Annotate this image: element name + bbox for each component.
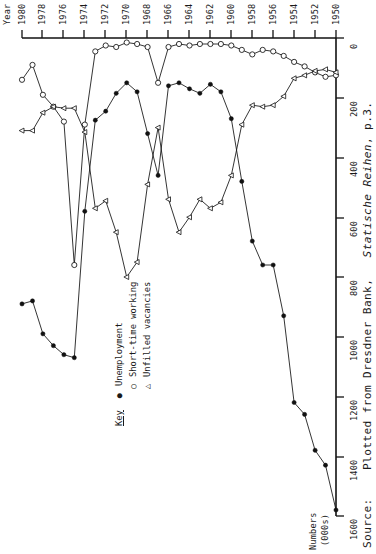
year-tick-1970: 1970 bbox=[121, 4, 131, 26]
marker-open-circle bbox=[302, 64, 307, 69]
year-tick-1952: 1952 bbox=[310, 4, 320, 26]
marker-triangle bbox=[19, 128, 24, 133]
marker-triangle bbox=[197, 197, 202, 202]
time-axis bbox=[22, 30, 336, 38]
year-tick-1980: 1980 bbox=[17, 4, 27, 26]
triangle-icon: △ bbox=[140, 381, 154, 392]
marker-filled-circle bbox=[271, 263, 275, 267]
marker-filled-circle bbox=[83, 209, 87, 213]
year-tick-1960: 1960 bbox=[226, 4, 236, 26]
series-unfilled-vacancies bbox=[19, 67, 338, 280]
marker-open-circle bbox=[82, 122, 87, 127]
marker-open-circle bbox=[250, 52, 255, 57]
open-circle-icon: ○ bbox=[126, 381, 140, 392]
source-text-after: , p.3. bbox=[361, 102, 374, 145]
year-tick-1968: 1968 bbox=[142, 4, 152, 26]
value-axis bbox=[336, 38, 344, 516]
marker-filled-circle bbox=[250, 239, 254, 243]
marker-open-circle bbox=[271, 49, 276, 54]
value-axis-title-line1: Numbers bbox=[308, 512, 318, 550]
value-tick-0: 0 bbox=[349, 44, 359, 49]
value-tick-200: 200 bbox=[349, 101, 359, 117]
marker-open-circle bbox=[114, 44, 119, 49]
time-axis-title: Year bbox=[2, 4, 12, 26]
marker-filled-circle bbox=[313, 448, 317, 452]
marker-triangle bbox=[30, 128, 35, 133]
marker-filled-circle bbox=[198, 91, 202, 95]
marker-open-circle bbox=[72, 262, 77, 267]
marker-open-circle bbox=[176, 41, 181, 46]
marker-open-circle bbox=[292, 59, 297, 64]
legend-label-vacancies: Unfilled vacancies bbox=[140, 282, 154, 377]
marker-filled-circle bbox=[156, 173, 160, 177]
marker-filled-circle bbox=[219, 90, 223, 94]
marker-triangle bbox=[72, 106, 77, 111]
legend-row-short-time: ○ Short-time working bbox=[126, 282, 140, 426]
year-tick-1976: 1976 bbox=[58, 4, 68, 26]
source-caption: Source: Plotted from Dresdner Bank, Stat… bbox=[361, 0, 374, 548]
marker-open-circle bbox=[124, 40, 129, 45]
marker-triangle bbox=[250, 103, 255, 108]
year-tick-1964: 1964 bbox=[184, 4, 194, 26]
year-tick-1966: 1966 bbox=[163, 4, 173, 26]
year-tick-1974: 1974 bbox=[79, 4, 89, 26]
marker-open-circle bbox=[19, 77, 24, 82]
marker-triangle bbox=[260, 104, 265, 109]
marker-open-circle bbox=[229, 43, 234, 48]
year-tick-1954: 1954 bbox=[289, 4, 299, 26]
value-tick-1600: 1600 bbox=[349, 519, 359, 541]
source-prefix: Source: bbox=[361, 498, 374, 548]
marker-filled-circle bbox=[72, 356, 76, 360]
marker-filled-circle bbox=[292, 400, 296, 404]
value-tick-1000: 1000 bbox=[349, 340, 359, 362]
marker-filled-circle bbox=[177, 81, 181, 85]
year-tick-1956: 1956 bbox=[268, 4, 278, 26]
marker-filled-circle bbox=[30, 299, 34, 303]
marker-open-circle bbox=[260, 47, 265, 52]
marker-open-circle bbox=[187, 43, 192, 48]
marker-open-circle bbox=[103, 43, 108, 48]
year-tick-1978: 1978 bbox=[37, 4, 47, 26]
marker-open-circle bbox=[218, 41, 223, 46]
rotated-figure: 0 200 400 600 800 1000 1200 1400 1600 Nu… bbox=[0, 0, 376, 554]
marker-filled-circle bbox=[187, 87, 191, 91]
series-unemployment bbox=[20, 81, 338, 512]
marker-triangle bbox=[270, 103, 275, 108]
marker-filled-circle bbox=[93, 118, 97, 122]
marker-triangle bbox=[302, 73, 307, 78]
legend-label-short-time: Short-time working bbox=[126, 282, 140, 377]
marker-open-circle bbox=[166, 44, 171, 49]
legend-row-unemployment: Key ● Unemployment bbox=[112, 282, 126, 426]
legend-label-unemployment: Unemployment bbox=[112, 323, 126, 387]
marker-filled-circle bbox=[208, 82, 212, 86]
legend-row-vacancies: △ Unfilled vacancies bbox=[140, 282, 154, 426]
marker-filled-circle bbox=[240, 179, 244, 183]
value-tick-800: 800 bbox=[349, 280, 359, 296]
year-tick-1972: 1972 bbox=[100, 4, 110, 26]
marker-filled-circle bbox=[323, 463, 327, 467]
marker-filled-circle bbox=[282, 314, 286, 318]
marker-triangle bbox=[134, 260, 139, 265]
marker-filled-circle bbox=[114, 91, 118, 95]
source-italic-title: Statische Reihen bbox=[361, 144, 374, 257]
series-line bbox=[22, 69, 336, 277]
marker-triangle bbox=[291, 76, 296, 81]
year-tick-1962: 1962 bbox=[205, 4, 215, 26]
marker-filled-circle bbox=[166, 84, 170, 88]
marker-open-circle bbox=[145, 44, 150, 49]
marker-open-circle bbox=[61, 119, 66, 124]
marker-filled-circle bbox=[229, 117, 233, 121]
marker-triangle bbox=[323, 67, 328, 72]
marker-triangle bbox=[40, 110, 45, 115]
marker-filled-circle bbox=[261, 263, 265, 267]
marker-filled-circle bbox=[62, 353, 66, 357]
marker-filled-circle bbox=[20, 302, 24, 306]
marker-filled-circle bbox=[125, 81, 129, 85]
marker-open-circle bbox=[197, 41, 202, 46]
value-axis-title-line2: (000s) bbox=[320, 514, 330, 546]
marker-triangle bbox=[61, 106, 66, 111]
marker-open-circle bbox=[30, 62, 35, 67]
marker-filled-circle bbox=[334, 508, 338, 512]
marker-filled-circle bbox=[135, 90, 139, 94]
marker-open-circle bbox=[323, 74, 328, 79]
